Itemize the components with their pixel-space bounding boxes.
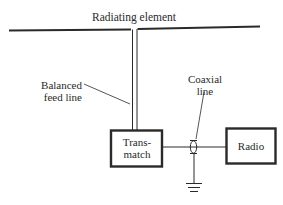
coax-leader (196, 92, 204, 139)
ground-icon (186, 153, 202, 192)
balanced-feed-line-label-line2: feed line (30, 91, 82, 103)
feed-line-leader (84, 84, 130, 104)
coaxial-line-label-line1: Coaxial (180, 73, 230, 85)
radio-label: Radio (227, 140, 275, 152)
coaxial-line-label: Coaxial line (180, 73, 230, 97)
radiating-element (9, 27, 260, 31)
transmatch-label-line1: Trans- (112, 136, 162, 148)
transmatch-label-line2: match (112, 148, 162, 160)
radiating-element-label: Radiating element (88, 11, 180, 23)
coaxial-line-label-line2: line (180, 85, 230, 97)
transmatch-label: Trans- match (112, 136, 162, 160)
balanced-feed-line (133, 29, 138, 130)
balanced-feed-line-label: Balanced feed line (30, 79, 82, 103)
balanced-feed-line-label-line1: Balanced (30, 79, 82, 91)
